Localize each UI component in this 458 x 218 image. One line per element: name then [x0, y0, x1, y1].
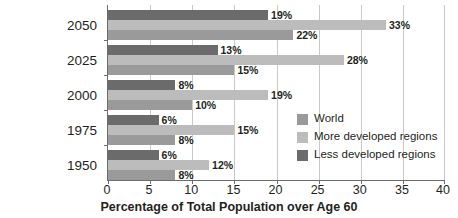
y-axis-label-1975: 1975	[37, 124, 97, 138]
bar-value-1975-world: 8%	[175, 135, 193, 145]
y-tickmark-3	[104, 110, 108, 111]
bar-2025-less-developed-regions	[108, 45, 218, 55]
gridline-40	[444, 5, 445, 180]
chart-legend: World More developed regions Less develo…	[297, 110, 437, 164]
x-tick-label-5: 5	[146, 184, 153, 197]
legend-label-less-developed-regions: Less developed regions	[314, 149, 435, 161]
bar-chart: 2050 2025 2000 1975 1950 19%	[0, 0, 458, 218]
x-tick-label-30: 30	[353, 184, 367, 197]
x-tick-label-40: 40	[436, 184, 450, 197]
bar-2000-world	[108, 100, 192, 110]
y-tickmark-2	[104, 75, 108, 76]
bar-value-2025-world: 15%	[234, 65, 258, 75]
bar-2000-less-developed-regions	[108, 80, 175, 90]
bar-value-2000-world: 10%	[192, 100, 216, 110]
bar-2050-world	[108, 30, 293, 40]
bar-2050-more-developed-regions	[108, 20, 386, 30]
bar-1975-more-developed-regions	[108, 125, 234, 135]
bar-value-1975-less-developed-regions: 6%	[159, 115, 177, 125]
x-tick-label-35: 35	[395, 184, 409, 197]
x-tick-label-10: 10	[184, 184, 198, 197]
bar-1975-world	[108, 135, 175, 145]
legend-swatch-icon-less-developed-regions	[297, 150, 308, 161]
bar-value-1975-more-developed-regions: 15%	[234, 125, 258, 135]
legend-item-less-developed-regions: Less developed regions	[297, 146, 437, 164]
bar-value-2050-more-developed-regions: 33%	[386, 20, 410, 30]
x-tick-label-20: 20	[269, 184, 283, 197]
legend-label-more-developed-regions: More developed regions	[314, 131, 437, 143]
x-tick-label-0: 0	[104, 184, 111, 197]
bar-value-1950-less-developed-regions: 6%	[159, 150, 177, 160]
legend-item-more-developed-regions: More developed regions	[297, 128, 437, 146]
bar-2050-less-developed-regions	[108, 10, 268, 20]
x-tick-label-15: 15	[226, 184, 240, 197]
y-tickmark-1	[104, 40, 108, 41]
y-axis-label-2050: 2050	[37, 19, 97, 33]
bar-value-2025-more-developed-regions: 28%	[344, 55, 368, 65]
bar-value-2050-world: 22%	[293, 30, 317, 40]
bar-value-2000-less-developed-regions: 8%	[175, 80, 193, 90]
legend-label-world: World	[314, 113, 344, 125]
bar-2025-world	[108, 65, 234, 75]
bar-value-2050-less-developed-regions: 19%	[268, 10, 292, 20]
y-axis-label-2025: 2025	[37, 54, 97, 68]
legend-swatch-icon-world	[297, 114, 308, 125]
bar-1975-less-developed-regions	[108, 115, 159, 125]
y-axis-label-1950: 1950	[37, 159, 97, 173]
bar-value-1950-more-developed-regions: 12%	[209, 160, 233, 170]
y-tickmark-4	[104, 145, 108, 146]
legend-swatch-icon-more-developed-regions	[297, 132, 308, 143]
bar-value-2025-less-developed-regions: 13%	[218, 45, 242, 55]
bar-value-1950-world: 8%	[175, 170, 193, 180]
bar-1950-less-developed-regions	[108, 150, 159, 160]
bar-value-2000-more-developed-regions: 19%	[268, 90, 292, 100]
legend-item-world: World	[297, 110, 437, 128]
bar-2000-more-developed-regions	[108, 90, 268, 100]
x-tick-label-25: 25	[311, 184, 325, 197]
bar-2025-more-developed-regions	[108, 55, 344, 65]
y-axis-label-2000: 2000	[37, 89, 97, 103]
x-axis-title: Percentage of Total Population over Age …	[0, 200, 458, 214]
bar-1950-world	[108, 170, 175, 180]
